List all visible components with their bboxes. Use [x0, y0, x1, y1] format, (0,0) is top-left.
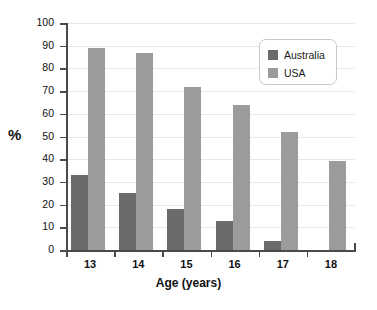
- bar-usa-15: [184, 87, 201, 250]
- y-tick-label: 10: [18, 220, 54, 232]
- x-tick-label: 13: [70, 258, 110, 270]
- legend-item-usa: USA: [268, 64, 336, 81]
- legend-label-australia: Australia: [284, 49, 325, 61]
- bar-australia-15: [167, 209, 184, 250]
- grid-line: [66, 159, 355, 160]
- y-tick-label: 100: [18, 16, 54, 28]
- x-axis-title: Age (years): [0, 276, 377, 290]
- bar-usa-13: [88, 48, 105, 250]
- x-tick-mark: [162, 250, 164, 257]
- y-tick-label: 20: [18, 198, 54, 210]
- bar-usa-18: [329, 161, 346, 250]
- grid-line: [66, 91, 355, 92]
- grid-line: [66, 182, 355, 183]
- bar-australia-17: [264, 241, 281, 250]
- x-tick-mark: [259, 250, 261, 257]
- y-tick-label: 40: [18, 152, 54, 164]
- y-tick-mark: [60, 205, 66, 207]
- y-tick-label: 50: [18, 130, 54, 142]
- bar-chart: % 0102030405060708090100 131415161718 Ag…: [0, 0, 377, 310]
- grid-line: [66, 23, 355, 24]
- x-axis-end-tick: [354, 243, 356, 251]
- y-tick-mark: [60, 68, 66, 70]
- y-tick-mark: [60, 227, 66, 229]
- y-tick-label: 80: [18, 61, 54, 73]
- grid-line: [66, 137, 355, 138]
- y-tick-mark: [60, 23, 66, 25]
- y-tick-mark: [60, 114, 66, 116]
- y-tick-mark: [60, 182, 66, 184]
- y-tick-label: 0: [18, 243, 54, 255]
- legend-swatch-usa: [268, 68, 278, 78]
- x-tick-mark: [66, 250, 68, 257]
- x-tick-label: 14: [118, 258, 158, 270]
- x-tick-mark: [307, 250, 309, 257]
- x-tick-label: 18: [311, 258, 351, 270]
- y-tick-mark: [60, 46, 66, 48]
- legend-swatch-australia: [268, 50, 278, 60]
- x-tick-mark: [211, 250, 213, 257]
- bar-australia-13: [71, 175, 88, 250]
- y-tick-mark: [60, 91, 66, 93]
- x-tick-mark: [114, 250, 116, 257]
- chart-legend: Australia USA: [259, 39, 337, 85]
- y-tick-label: 30: [18, 175, 54, 187]
- legend-item-australia: Australia: [268, 46, 336, 63]
- bar-australia-16: [216, 221, 233, 251]
- bar-usa-17: [281, 132, 298, 250]
- y-tick-label: 60: [18, 107, 54, 119]
- grid-line: [66, 205, 355, 206]
- x-tick-label: 15: [166, 258, 206, 270]
- bar-usa-14: [136, 53, 153, 250]
- y-tick-mark: [60, 137, 66, 139]
- y-tick-label: 70: [18, 84, 54, 96]
- y-axis-line: [66, 23, 68, 251]
- grid-line: [66, 114, 355, 115]
- y-tick-mark: [60, 159, 66, 161]
- x-tick-label: 17: [263, 258, 303, 270]
- bar-usa-16: [233, 105, 250, 250]
- y-tick-label: 90: [18, 39, 54, 51]
- legend-label-usa: USA: [284, 67, 306, 79]
- x-tick-label: 16: [215, 258, 255, 270]
- grid-line: [66, 227, 355, 228]
- bar-australia-14: [119, 193, 136, 250]
